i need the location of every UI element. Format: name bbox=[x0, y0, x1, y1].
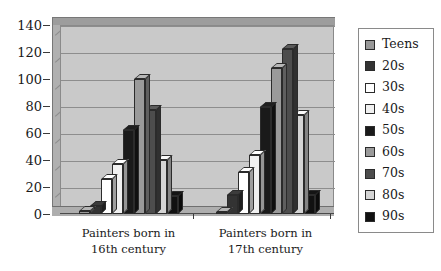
y-axis: 020406080100120140 bbox=[0, 0, 52, 220]
bar-face bbox=[216, 212, 227, 214]
legend-item-label: 80s bbox=[382, 189, 404, 202]
legend-swatch-icon bbox=[365, 83, 375, 93]
legend-item-label: 60s bbox=[382, 146, 404, 159]
y-tick-label: 0 bbox=[34, 208, 42, 221]
bar-face bbox=[79, 211, 90, 214]
y-tick-label: 140 bbox=[17, 19, 42, 32]
y-tick-label: 120 bbox=[17, 46, 42, 59]
legend-item[interactable]: 70s bbox=[365, 165, 404, 182]
bar bbox=[216, 212, 227, 214]
legend-item[interactable]: Teens bbox=[365, 36, 419, 53]
y-tick-mark bbox=[43, 25, 50, 26]
legend: Teens20s30s40s50s60s70s80s90s bbox=[358, 28, 434, 233]
x-axis-label: Painters born in 16th century bbox=[59, 226, 199, 257]
legend-swatch-icon bbox=[365, 40, 375, 50]
bar-side bbox=[315, 190, 320, 214]
y-tick-label: 100 bbox=[17, 73, 42, 86]
bar-side bbox=[134, 125, 139, 214]
bar-side bbox=[178, 191, 183, 214]
bar-side bbox=[271, 102, 276, 214]
legend-item-label: 30s bbox=[382, 81, 404, 94]
bar-side bbox=[156, 105, 161, 214]
bar-side bbox=[282, 63, 287, 214]
legend-item[interactable]: 90s bbox=[365, 208, 404, 225]
bar bbox=[79, 211, 90, 214]
legend-item-label: 20s bbox=[382, 60, 404, 73]
bar-side bbox=[260, 150, 265, 214]
legend-item[interactable]: 80s bbox=[365, 187, 404, 204]
bars-layer bbox=[60, 25, 334, 214]
y-tick-mark bbox=[43, 106, 50, 107]
y-tick-label: 40 bbox=[25, 154, 42, 167]
legend-swatch-icon bbox=[365, 104, 375, 114]
bar-side bbox=[249, 167, 254, 214]
plot-area bbox=[52, 17, 334, 214]
x-tick-mark bbox=[193, 214, 194, 219]
y-tick-label: 20 bbox=[25, 181, 42, 194]
legend-swatch-icon bbox=[365, 147, 375, 157]
legend-item[interactable]: 30s bbox=[365, 79, 404, 96]
legend-swatch-icon bbox=[365, 169, 375, 179]
legend-item[interactable]: 50s bbox=[365, 122, 404, 139]
y-tick-label: 80 bbox=[25, 100, 42, 113]
x-axis-label: Painters born in 17th century bbox=[196, 226, 336, 257]
legend-item[interactable]: 60s bbox=[365, 144, 404, 161]
bar-chart: 020406080100120140 Painters born in 16th… bbox=[0, 0, 441, 271]
x-tick-mark bbox=[330, 214, 331, 219]
y-tick-mark bbox=[43, 160, 50, 161]
y-tick-mark bbox=[43, 187, 50, 188]
legend-item[interactable]: 20s bbox=[365, 58, 404, 75]
legend-item[interactable]: 40s bbox=[365, 101, 404, 118]
bar-side bbox=[123, 159, 128, 214]
legend-swatch-icon bbox=[365, 126, 375, 136]
y-tick-mark bbox=[43, 214, 50, 215]
bar-side bbox=[304, 110, 309, 214]
y-tick-mark bbox=[43, 79, 50, 80]
legend-item-label: 90s bbox=[382, 210, 404, 223]
legend-item-label: Teens bbox=[382, 38, 419, 51]
y-tick-label: 60 bbox=[25, 127, 42, 140]
bar-side bbox=[145, 74, 150, 214]
bar-side bbox=[167, 155, 172, 214]
bar-side bbox=[112, 174, 117, 214]
legend-item-label: 40s bbox=[382, 103, 404, 116]
legend-item-label: 50s bbox=[382, 124, 404, 137]
y-tick-mark bbox=[43, 52, 50, 53]
legend-swatch-icon bbox=[365, 61, 375, 71]
y-tick-mark bbox=[43, 133, 50, 134]
bar-side bbox=[293, 44, 298, 214]
legend-swatch-icon bbox=[365, 190, 375, 200]
legend-item-label: 70s bbox=[382, 167, 404, 180]
legend-swatch-icon bbox=[365, 212, 375, 222]
plot-wall-side bbox=[52, 25, 60, 214]
